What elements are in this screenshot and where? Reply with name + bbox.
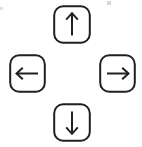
scan-artifact-speck	[107, 1, 111, 5]
key-arrow-down[interactable]	[53, 103, 91, 142]
key-arrow-right[interactable]	[99, 54, 136, 93]
arrow-key-cluster	[0, 0, 142, 147]
scan-artifact-speck	[0, 7, 3, 10]
key-arrow-up[interactable]	[53, 5, 91, 44]
key-arrow-left[interactable]	[9, 54, 46, 93]
